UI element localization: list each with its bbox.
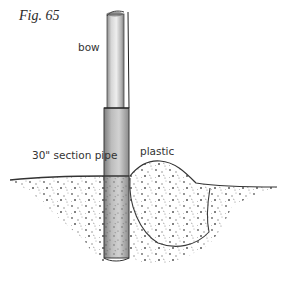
figure-canvas: Fig. 65 bow 30" section pipe plastic [0,0,291,291]
section-pipe-label: 30" section pipe [32,149,117,161]
bow-pipe [107,11,129,109]
figure-number: Fig. 65 [19,8,59,24]
section-pipe [104,108,129,261]
bow-label: bow [78,41,100,53]
soil [10,161,277,264]
plastic-label: plastic [140,145,174,157]
